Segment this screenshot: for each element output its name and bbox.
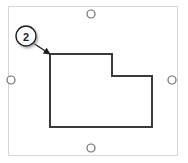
shape-selection-canvas: 2 xyxy=(0,0,188,163)
handle-middle-right[interactable] xyxy=(168,76,176,84)
handle-top-center[interactable] xyxy=(87,10,95,18)
callout-balloon-2[interactable]: 2 xyxy=(16,26,36,46)
drawing-stage: 2 xyxy=(0,0,188,163)
handle-bottom-center[interactable] xyxy=(87,144,95,152)
callout-balloon-number: 2 xyxy=(23,31,29,43)
handle-middle-left[interactable] xyxy=(7,76,15,84)
